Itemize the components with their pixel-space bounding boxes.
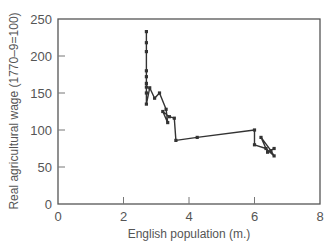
- data-point: [273, 147, 276, 150]
- data-point: [161, 110, 164, 113]
- x-axis-title: English population (m.): [128, 227, 251, 241]
- data-point: [266, 151, 269, 154]
- data-point: [145, 103, 148, 106]
- y-axis: 050100150200250: [30, 12, 65, 212]
- data-point: [145, 69, 148, 72]
- plot-frame: [58, 19, 320, 204]
- data-point: [145, 50, 148, 53]
- data-point: [145, 41, 148, 44]
- data-point: [173, 117, 176, 120]
- data-point: [148, 86, 151, 89]
- data-point: [196, 136, 199, 139]
- data-point: [166, 121, 169, 124]
- data-point: [158, 91, 161, 94]
- y-axis-title: Real agricultural wage (1770–9=100): [7, 12, 21, 209]
- data-point: [253, 128, 256, 131]
- data-point: [273, 154, 276, 157]
- x-tick-label: 2: [120, 209, 127, 224]
- data-point: [165, 108, 168, 111]
- data-point: [168, 115, 171, 118]
- data-point: [145, 30, 148, 33]
- y-tick-label: 0: [45, 197, 52, 212]
- data-point: [253, 143, 256, 146]
- data-point: [174, 139, 177, 142]
- data-point: [153, 97, 156, 100]
- data-series: [145, 30, 276, 158]
- y-tick-label: 200: [30, 49, 52, 64]
- data-point: [145, 86, 148, 89]
- data-point: [264, 147, 267, 150]
- x-tick-label: 6: [251, 209, 258, 224]
- series-line: [146, 32, 274, 156]
- data-point: [145, 75, 148, 78]
- data-point: [145, 82, 148, 85]
- wage-population-chart: 050100150200250 02468 English population…: [0, 0, 336, 248]
- data-point: [259, 136, 262, 139]
- y-tick-label: 150: [30, 86, 52, 101]
- y-tick-label: 50: [38, 160, 52, 175]
- x-tick-label: 0: [54, 209, 61, 224]
- data-point: [269, 149, 272, 152]
- y-tick-label: 250: [30, 12, 52, 27]
- x-tick-label: 8: [316, 209, 323, 224]
- y-tick-label: 100: [30, 123, 52, 138]
- x-tick-label: 4: [185, 209, 192, 224]
- x-axis: 02468: [54, 197, 323, 224]
- data-point: [145, 91, 148, 94]
